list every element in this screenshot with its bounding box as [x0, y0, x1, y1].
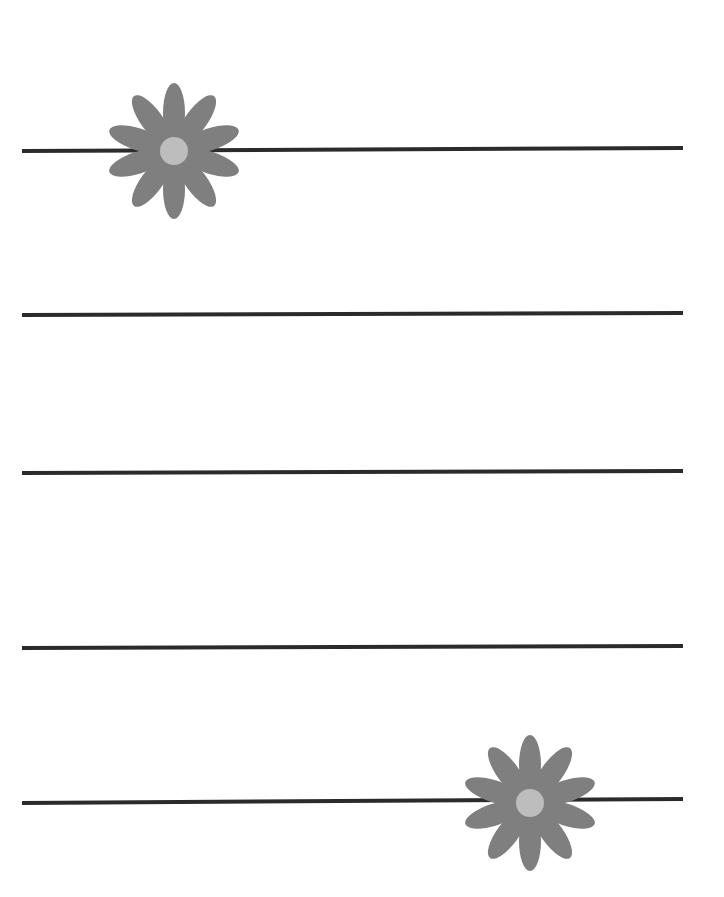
ruled-lines [22, 148, 683, 803]
lined-page [0, 0, 724, 897]
flower-center [516, 789, 544, 817]
page-artwork [0, 0, 724, 897]
ruled-line-3 [22, 471, 683, 473]
flower-center [160, 137, 188, 165]
ruled-line-4 [22, 646, 683, 648]
ruled-line-5 [22, 799, 683, 803]
ruled-line-2 [22, 313, 683, 315]
flower-decorations [106, 83, 598, 871]
flower-bottom-right-icon [462, 735, 598, 871]
ruled-line-1 [22, 148, 683, 151]
